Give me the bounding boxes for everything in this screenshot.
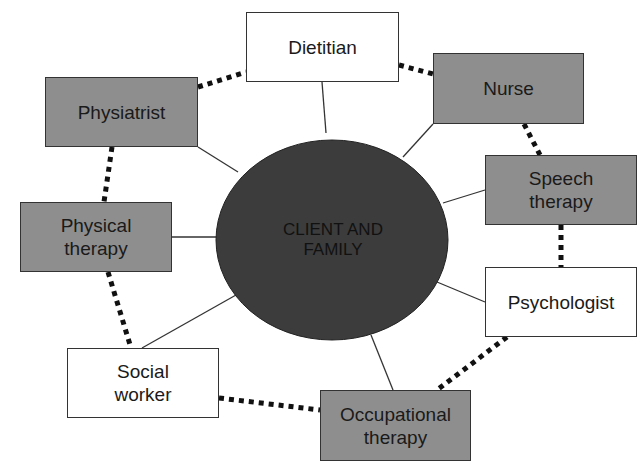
node-dietitian: Dietitian	[246, 12, 399, 82]
node-physiatrist: Physiatrist	[45, 77, 198, 147]
node-label-line2: therapy	[61, 237, 132, 260]
node-social-worker: Social worker	[67, 348, 219, 418]
node-label-line2: worker	[114, 383, 171, 406]
node-speech-therapy: Speech therapy	[485, 155, 637, 225]
node-occupational-therapy: Occupational therapy	[320, 390, 471, 461]
node-psychologist: Psychologist	[485, 267, 637, 337]
node-label: Physiatrist	[78, 101, 166, 124]
node-label-line2: therapy	[340, 426, 451, 449]
node-label-line1: Physical	[61, 214, 132, 237]
node-label: Dietitian	[288, 36, 357, 59]
node-physical-therapy: Physical therapy	[20, 202, 172, 272]
node-label-line1: Speech	[529, 167, 593, 190]
node-label-line2: therapy	[529, 190, 593, 213]
center-label-line1: CLIENT AND	[283, 220, 383, 240]
center-label: CLIENT AND FAMILY	[217, 140, 449, 340]
center-label-line2: FAMILY	[283, 240, 383, 260]
node-label: Psychologist	[508, 291, 615, 314]
node-nurse: Nurse	[433, 53, 584, 124]
node-label-line1: Social	[114, 360, 171, 383]
node-label: Nurse	[483, 77, 534, 100]
node-label-line1: Occupational	[340, 403, 451, 426]
